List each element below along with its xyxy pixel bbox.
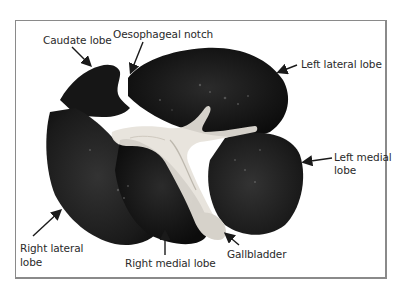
gallbladder-label: Gallbladder bbox=[227, 248, 286, 261]
left-medial-lobe-label-line1: Left medial bbox=[334, 151, 392, 164]
right-lateral-lobe-label-line2: lobe bbox=[20, 256, 42, 269]
left-lateral-lobe-label: Left lateral lobe bbox=[301, 58, 382, 71]
left-lateral-lobe-shape bbox=[128, 48, 288, 137]
left-medial-lobe-shape bbox=[208, 133, 303, 235]
right-lateral-lobe-label-line1: Right lateral bbox=[20, 242, 83, 255]
oesophageal-notch-label: Oesophageal notch bbox=[113, 28, 213, 41]
left-medial-lobe-label-line2: lobe bbox=[334, 164, 356, 177]
caudate-lobe-label: Caudate lobe bbox=[43, 34, 112, 47]
right-medial-lobe-label: Right medial lobe bbox=[125, 257, 216, 270]
